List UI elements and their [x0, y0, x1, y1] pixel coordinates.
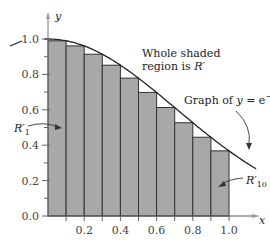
rectangle-9: [193, 137, 211, 216]
rectangle-2: [66, 46, 84, 216]
x-tick-label: 0.4: [112, 224, 130, 237]
y-axis-arrow-icon: [46, 12, 50, 19]
rectangle-10: [211, 151, 229, 216]
y-tick-label: 0.8: [22, 68, 40, 81]
y-tick-label: 0.4: [22, 139, 40, 152]
region-annotation-line2: region is R′: [142, 60, 205, 73]
curve-left-extension: [10, 41, 22, 46]
y-tick-label: 1.0: [22, 33, 40, 46]
y-axis-label: y: [54, 10, 62, 23]
y-tick-label: 0.0: [22, 210, 40, 223]
rectangle-5: [120, 78, 138, 216]
x-tick-label: 0.6: [148, 224, 166, 237]
x-ticks: 0.20.40.60.81.0: [66, 216, 238, 237]
rectangle-8: [175, 123, 193, 216]
rectangle-3: [84, 54, 102, 216]
graph-annotation-arrow: [236, 111, 249, 145]
x-tick-label: 0.8: [184, 224, 202, 237]
rectangle-6: [139, 92, 157, 216]
y-tick-label: 0.2: [22, 175, 40, 188]
rectangle-7: [157, 107, 175, 216]
riemann-sum-chart: 0.00.20.40.60.81.0 0.20.40.60.81.0 y x W…: [0, 0, 270, 244]
rectangle-4: [102, 65, 120, 216]
graph-annotation: Graph of y = e−x²: [184, 92, 270, 107]
region-annotation-line1: Whole shaded: [142, 47, 220, 60]
r1-label: R′1: [13, 122, 30, 137]
y-tick-label: 0.6: [22, 104, 40, 117]
graph-arrow-head-icon: [246, 143, 252, 150]
x-axis-label: x: [259, 214, 266, 227]
r10-label: R′10: [245, 174, 267, 189]
x-tick-label: 1.0: [220, 224, 238, 237]
x-tick-label: 0.2: [75, 224, 93, 237]
